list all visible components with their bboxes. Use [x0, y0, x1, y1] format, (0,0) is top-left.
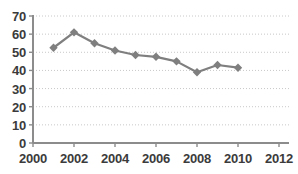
data-point-marker	[90, 39, 98, 47]
y-axis-tick-label: 50	[12, 45, 26, 60]
y-axis-tick-label: 30	[12, 81, 26, 96]
x-axis-tick-label: 2008	[183, 151, 211, 166]
chart-plot-area	[0, 0, 298, 174]
x-axis-tick-label: 2000	[19, 151, 47, 166]
data-point-marker	[213, 61, 221, 69]
x-axis-tick-label: 2010	[224, 151, 252, 166]
y-axis-tick-label: 60	[12, 27, 26, 42]
data-point-marker	[111, 46, 119, 54]
y-axis-tick-label: 20	[12, 99, 26, 114]
data-point-marker	[193, 68, 201, 76]
data-point-marker	[152, 53, 160, 61]
y-axis-tick-label: 70	[12, 9, 26, 24]
y-axis-tick-label: 10	[12, 117, 26, 132]
y-axis-tick-label: 40	[12, 63, 26, 78]
x-axis-tick-label: 2002	[60, 151, 88, 166]
y-axis-tick-label: 0	[19, 136, 26, 151]
x-axis-tick-label: 2004	[101, 151, 129, 166]
x-axis-tick-label: 2012	[265, 151, 293, 166]
line-chart: 010203040506070 200020022004200620082010…	[0, 0, 298, 174]
x-axis-tick-label: 2006	[142, 151, 170, 166]
data-point-marker	[172, 57, 180, 65]
